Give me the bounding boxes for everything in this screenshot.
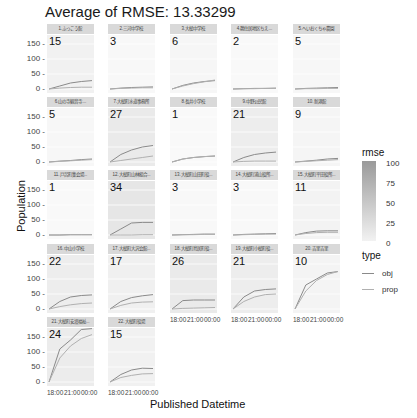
facet-panel: 14.大槌町浦山役所...3: [231, 170, 278, 239]
facet-strip-label: 8.長井小学校: [170, 97, 217, 107]
facet-rmse-value: 2: [233, 35, 239, 47]
prop-series-line: [110, 302, 153, 309]
y-tick-label: 150 -: [19, 185, 45, 194]
facet-rmse-value: 15: [110, 328, 122, 340]
facet-plot-area: 22: [47, 255, 94, 313]
y-tick-label: 100 -: [19, 274, 45, 283]
rmse-tick: 100: [386, 159, 399, 168]
obj-series-line: [295, 272, 338, 310]
facet-panel: 3.大槌中学校6: [170, 24, 217, 93]
facet-rmse-value: 27: [110, 108, 122, 120]
y-tick-label: 50 -: [19, 362, 45, 371]
x-tick-label: 18:00: [231, 316, 247, 323]
facet-panel: 12.大槌町山林組合...34: [108, 170, 155, 239]
x-tick-label: 18:00: [108, 389, 124, 396]
facet-plot-area: 24: [47, 328, 94, 386]
type-legend: type obj prop: [362, 250, 398, 297]
obj-series-line: [110, 146, 153, 163]
prop-series-line: [295, 272, 338, 310]
y-tick-label: 0 -: [19, 230, 45, 239]
facet-strip-label: 6.山の寺観音寺...: [47, 97, 94, 107]
facet-rmse-value: 3: [172, 181, 178, 193]
facet-rmse-value: 1: [172, 108, 178, 120]
legend-label: obj: [382, 269, 393, 278]
facet-panel: 16.中山小学校22: [47, 244, 94, 313]
facet-rmse-value: 3: [233, 181, 239, 193]
facet-strip-label: 21.大槌町安渡福祉...: [47, 317, 94, 327]
facet-strip-label: 2.三河中学校: [108, 24, 155, 34]
facet-panel: 21.大槌町安渡福祉...24: [47, 317, 94, 386]
facet-rmse-value: 15: [49, 35, 61, 47]
rmse-tick: 50: [386, 199, 395, 208]
y-tick-label: 0 -: [19, 157, 45, 166]
facet-strip-label: 20.吉里吉里: [293, 244, 340, 254]
prop-series-line: [49, 303, 92, 309]
x-tick-label: 00:00: [265, 316, 281, 323]
facet-strip-label: 1.ふっこう館: [47, 24, 94, 34]
x-tick-label: 00:00: [327, 316, 343, 323]
facet-plot-area: 3: [108, 35, 155, 93]
facet-strip-label: 13.大槌町山田町役...: [170, 170, 217, 180]
y-tick-label: 50 -: [19, 142, 45, 151]
facet-panel: 13.大槌町山田町役...3: [170, 170, 217, 239]
facet-strip-label: 10.新港館: [293, 97, 340, 107]
x-axis-label: Published Datetime: [150, 398, 245, 410]
rmse-tick: 0: [386, 239, 390, 248]
facet-rmse-value: 34: [110, 181, 122, 193]
facet-rmse-value: 1: [49, 181, 55, 193]
facet-plot-area: 21: [231, 255, 278, 313]
y-tick-label: 100 -: [19, 200, 45, 209]
x-tick-label: 21:00: [125, 389, 141, 396]
facet-plot-area: 27: [108, 108, 155, 166]
facet-rmse-value: 21: [233, 108, 245, 120]
x-tick-label: 18:00: [170, 316, 186, 323]
facet-strip-label: 19.大槌町小槌町役...: [231, 244, 278, 254]
facet-plot-area: 3: [170, 181, 217, 239]
rmse-tick: 75: [386, 179, 395, 188]
facet-plot-area: 26: [170, 255, 217, 313]
facet-plot-area: 9: [293, 108, 340, 166]
facet-plot-area: 34: [108, 181, 155, 239]
facet-strip-label: 3.大槌中学校: [170, 24, 217, 34]
obj-series-line: [49, 295, 92, 309]
facet-rmse-value: 17: [110, 255, 122, 267]
facet-plot-area: 15: [108, 328, 155, 386]
facet-panel: 18.大槌町鳥居町役...26: [170, 244, 217, 313]
x-tick-label: 18:00: [293, 316, 309, 323]
facet-panel: 6.山の寺観音寺...5: [47, 97, 94, 166]
facet-panel: 17.大槌町大沢会館...17: [108, 244, 155, 313]
facet-strip-label: 14.大槌町浦山役所...: [231, 170, 278, 180]
facet-rmse-value: 26: [172, 255, 184, 267]
prop-line-icon: [362, 289, 374, 290]
obj-line-icon: [362, 273, 374, 274]
rmse-legend: rmse 100 75 50 25 0: [362, 147, 384, 158]
y-tick-label: 150 -: [19, 112, 45, 121]
facet-panel: 22.大槌町役場15: [108, 317, 155, 386]
rmse-colorbar: [362, 161, 376, 241]
facet-panel: 5.へいおくちゃ農園5: [293, 24, 340, 93]
facet-panel: 15.大槌町平田役所...11: [293, 170, 340, 239]
facet-rmse-value: 10: [295, 255, 307, 267]
y-tick-label: 50 -: [19, 215, 45, 224]
y-tick-label: 50 -: [19, 289, 45, 298]
facet-strip-label: 9.中野公民館: [231, 97, 278, 107]
facet-panel: 20.吉里吉里10: [293, 244, 340, 313]
facet-strip-label: 11.戸呂町集会場...: [47, 170, 94, 180]
facet-rmse-value: 22: [49, 255, 61, 267]
facet-panel: 2.三河中学校3: [108, 24, 155, 93]
prop-series-line: [295, 232, 338, 235]
facet-strip-label: 5.へいおくちゃ農園: [293, 24, 340, 34]
legend-item-obj: obj: [362, 265, 398, 281]
facet-strip-label: 22.大槌町役場: [108, 317, 155, 327]
y-tick-label: 150 -: [19, 332, 45, 341]
facet-plot-area: 6: [170, 35, 217, 93]
facet-panel: 1.ふっこう館15: [47, 24, 94, 93]
facet-panel: 19.大槌町小槌町役...21: [231, 244, 278, 313]
facet-rmse-value: 9: [295, 108, 301, 120]
rmse-tick: 25: [386, 219, 395, 228]
facet-panel: 4.鵜住居地区ちえ...2: [231, 24, 278, 93]
facet-plot-area: 17: [108, 255, 155, 313]
facet-panel: 8.長井小学校1: [170, 97, 217, 166]
legend-item-prop: prop: [362, 281, 398, 297]
facet-rmse-value: 6: [172, 35, 178, 47]
